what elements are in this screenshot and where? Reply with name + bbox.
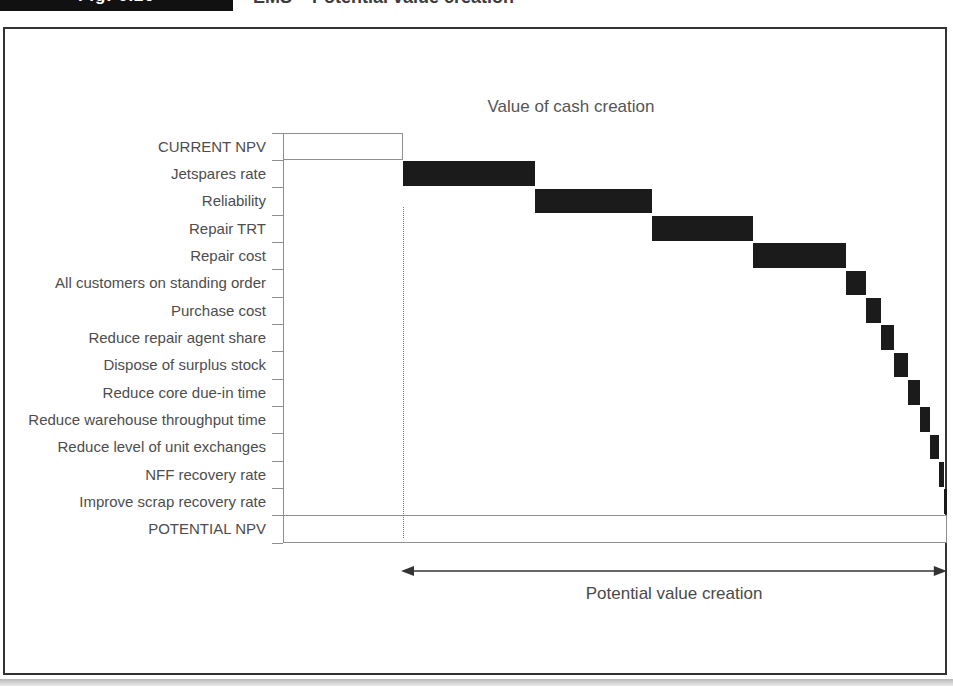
category-label: Reliability [0, 187, 266, 214]
category-label: POTENTIAL NPV [0, 515, 266, 542]
axis-tick [272, 133, 283, 134]
waterfall-bar-purchase-cost [866, 298, 881, 323]
axis-tick [272, 461, 283, 462]
figure-page: Fig. 6.20 EMS – Potential value creation… [0, 0, 953, 687]
category-label: Improve scrap recovery rate [0, 488, 266, 515]
waterfall-bar-nff-recovery-rate [939, 462, 944, 487]
waterfall-bar-current-npv [283, 133, 403, 160]
category-label: All customers on standing order [0, 269, 266, 296]
waterfall-bar-repair-trt [652, 216, 754, 241]
category-label: Dispose of surplus stock [0, 351, 266, 378]
axis-tick [272, 215, 283, 216]
axis-tick [272, 297, 283, 298]
waterfall-bar-potential-npv [283, 515, 947, 542]
category-label: Purchase cost [0, 297, 266, 324]
category-label: Repair TRT [0, 215, 266, 242]
category-label: CURRENT NPV [0, 133, 266, 160]
axis-tick [272, 488, 283, 489]
figure-label: Fig. 6.20 [78, 0, 155, 5]
axis-tick [272, 269, 283, 270]
potential-value-arrow [401, 563, 947, 579]
axis-tick [272, 160, 283, 161]
category-label: Reduce level of unit exchanges [0, 433, 266, 460]
category-label: Repair cost [0, 242, 266, 269]
waterfall-bar-improve-scrap-recovery-rate [944, 489, 947, 514]
axis-tick [272, 515, 283, 516]
category-label: Reduce repair agent share [0, 324, 266, 351]
waterfall-bar-reliability [535, 189, 651, 214]
category-label: NFF recovery rate [0, 461, 266, 488]
waterfall-bar-dispose-of-surplus-stock [894, 353, 908, 378]
category-label: Reduce core due-in time [0, 379, 266, 406]
waterfall-bar-jetspares-rate [403, 161, 535, 186]
axis-tick [272, 406, 283, 407]
figure-label-box: Fig. 6.20 [0, 0, 233, 11]
waterfall-bar-reduce-warehouse-throughput-time [920, 407, 930, 432]
waterfall-bar-all-customers-on-standing-order [846, 271, 866, 296]
chart-title: Value of cash creation [431, 97, 711, 117]
axis-tick [272, 379, 283, 380]
waterfall-bar-reduce-level-of-unit-exchanges [930, 435, 939, 460]
category-label: Reduce warehouse throughput time [0, 406, 266, 433]
axis-tick [272, 543, 283, 544]
axis-tick [272, 324, 283, 325]
waterfall-bar-repair-cost [753, 243, 846, 268]
arrow-right-head-icon [934, 566, 947, 576]
category-axis-line [283, 133, 284, 543]
arrow-label: Potential value creation [403, 584, 945, 604]
axis-tick [272, 433, 283, 434]
figure-title: EMS – Potential value creation [253, 0, 514, 7]
waterfall-bar-reduce-core-due-in-time [908, 380, 920, 405]
waterfall-bar-reduce-repair-agent-share [881, 325, 894, 350]
axis-tick [272, 242, 283, 243]
baseline-dotted-line [403, 207, 404, 538]
axis-tick [272, 351, 283, 352]
category-label: Jetspares rate [0, 160, 266, 187]
arrow-left-head-icon [401, 566, 414, 576]
scan-shadow [0, 679, 953, 686]
axis-tick [272, 187, 283, 188]
